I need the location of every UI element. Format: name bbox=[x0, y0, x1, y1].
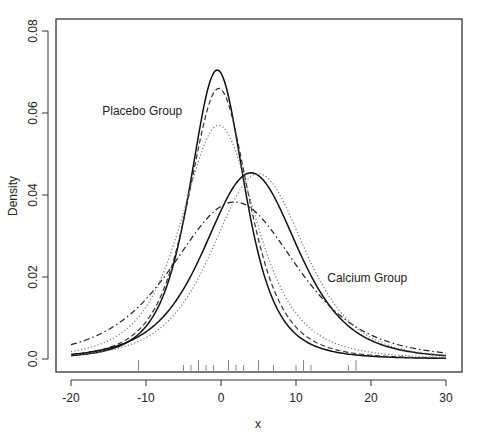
x-tick-label: 20 bbox=[364, 391, 378, 405]
y-tick-label: 0.06 bbox=[26, 101, 40, 125]
x-tick-label: -10 bbox=[137, 391, 155, 405]
rug bbox=[139, 360, 357, 372]
density-chart: -20-100102030 0.00.020.040.060.08 x Dens… bbox=[0, 0, 478, 442]
x-axis-title: x bbox=[255, 417, 261, 431]
x-tick-label: 0 bbox=[218, 391, 225, 405]
y-tick-label: 0.08 bbox=[26, 19, 40, 43]
y-tick-label: 0.0 bbox=[26, 350, 40, 367]
annotation-calcium: Calcium Group bbox=[327, 271, 407, 285]
x-axis: -20-100102030 bbox=[62, 380, 453, 405]
x-tick-label: -20 bbox=[62, 391, 80, 405]
x-tick-label: 30 bbox=[439, 391, 453, 405]
y-tick-label: 0.04 bbox=[26, 183, 40, 207]
series-placebo-dashed bbox=[71, 88, 446, 358]
annotation-placebo: Placebo Group bbox=[102, 104, 182, 118]
y-axis: 0.00.020.040.060.08 bbox=[26, 19, 48, 367]
plot-frame bbox=[56, 19, 462, 372]
y-tick-label: 0.02 bbox=[26, 265, 40, 289]
y-axis-title: Density bbox=[6, 176, 20, 216]
x-tick-label: 10 bbox=[289, 391, 303, 405]
